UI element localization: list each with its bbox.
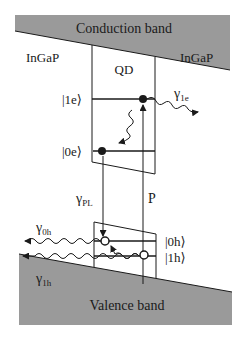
level-0h-label: |0h⟩ bbox=[165, 234, 186, 249]
electron-1e-dot bbox=[139, 95, 147, 103]
electron-0e-dot bbox=[98, 147, 106, 155]
valence-band: Valence band bbox=[19, 254, 232, 325]
hole-1h-circle bbox=[140, 251, 148, 259]
hole-0h-circle bbox=[101, 237, 109, 245]
valence-band-label: Valence band bbox=[89, 298, 164, 313]
level-1e-label: |1e⟩ bbox=[62, 92, 82, 107]
energy-diagram: Conduction band Valence band InGaP InGaP… bbox=[0, 0, 244, 338]
gamma-pl-label: γPL bbox=[75, 191, 93, 208]
gamma-1e-label: γ1e bbox=[173, 86, 189, 103]
relaxation-arrow-icon bbox=[119, 110, 133, 143]
pump-label: P bbox=[148, 191, 156, 206]
ingap-right-label: InGaP bbox=[180, 50, 213, 65]
level-1h-label: |1h⟩ bbox=[165, 250, 186, 265]
level-0e-label: |0e⟩ bbox=[62, 144, 82, 159]
conduction-band-label: Conduction band bbox=[76, 21, 172, 36]
ingap-left-label: InGaP bbox=[26, 50, 59, 65]
gamma-0h-label: γ0h bbox=[35, 220, 52, 237]
gamma-0h-emission-icon bbox=[25, 239, 100, 244]
qd-label: QD bbox=[115, 62, 134, 77]
